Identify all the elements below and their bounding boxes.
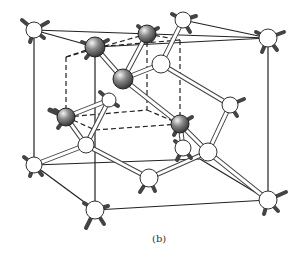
figure-caption: (b)	[152, 233, 166, 244]
crystal-diagram	[0, 0, 306, 266]
